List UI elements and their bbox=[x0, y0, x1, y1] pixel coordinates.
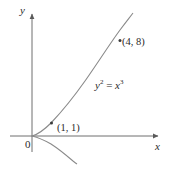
point-marker-1-1 bbox=[50, 122, 53, 125]
equation-rhs-exponent: 3 bbox=[120, 78, 124, 86]
curve-equation-label: y2 = x3 bbox=[95, 80, 124, 91]
point-label-4-8: (4, 8) bbox=[122, 37, 145, 48]
curve-upper-branch bbox=[32, 13, 133, 136]
equation-lhs-exponent: 2 bbox=[100, 78, 104, 86]
math-figure: y x 0 (1, 1) (4, 8) y2 = x3 bbox=[0, 0, 175, 174]
origin-label: 0 bbox=[25, 139, 31, 150]
curve-lower-branch bbox=[32, 136, 77, 164]
y-axis-label: y bbox=[20, 5, 25, 16]
equation-relation: = bbox=[106, 79, 112, 91]
x-axis-label: x bbox=[155, 141, 160, 152]
point-label-1-1: (1, 1) bbox=[57, 123, 80, 134]
